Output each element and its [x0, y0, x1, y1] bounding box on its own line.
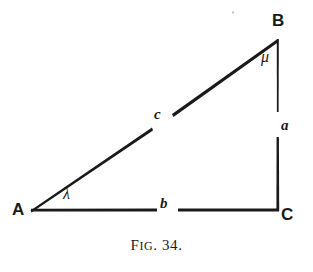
figure-caption: FIG. 34. — [0, 238, 313, 253]
vertex-label-a: A — [12, 201, 24, 218]
side-hypotenuse-segment-lower — [31, 128, 154, 213]
angle-label-lambda: λ — [63, 186, 70, 202]
vertex-label-c: C — [281, 206, 293, 223]
figure-caption-smallcaps: IG — [139, 239, 153, 253]
side-base-segment-right — [178, 208, 279, 211]
side-base-segment-left — [31, 209, 157, 212]
figure-caption-number: . 34. — [153, 237, 182, 253]
figure-page: A B C c a b λ μ FIG. 34. — [0, 0, 313, 272]
side-label-c: c — [154, 107, 161, 122]
side-vertical-segment-upper — [277, 39, 279, 112]
triangle-diagram — [0, 0, 313, 272]
side-label-b: b — [160, 196, 168, 211]
scan-artifact-speck — [232, 11, 234, 14]
angle-label-mu: μ — [261, 49, 269, 65]
vertex-label-b: B — [272, 12, 284, 29]
side-label-a: a — [281, 118, 289, 133]
side-vertical-segment-lower — [276, 137, 279, 211]
